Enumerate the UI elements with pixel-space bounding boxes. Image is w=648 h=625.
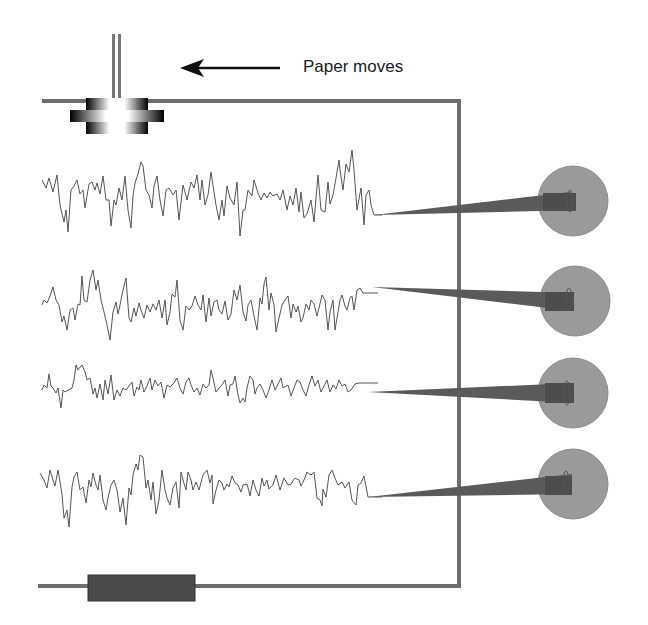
polygraph-diagram bbox=[0, 0, 648, 625]
trace-2 bbox=[42, 270, 378, 340]
trace-1 bbox=[42, 150, 382, 236]
pen-1 bbox=[374, 166, 608, 236]
roller-shaft-icon bbox=[112, 34, 121, 99]
pen-3 bbox=[368, 358, 608, 428]
paper-moves-label: Paper moves bbox=[303, 57, 403, 77]
pen-4 bbox=[368, 449, 608, 519]
trace-4 bbox=[40, 455, 382, 527]
paper-frame bbox=[38, 101, 461, 587]
feed-roller-icon bbox=[70, 98, 164, 134]
pen-2 bbox=[372, 266, 610, 336]
left-arrow-icon bbox=[180, 59, 280, 77]
trace-3 bbox=[42, 365, 378, 408]
pen-arm bbox=[368, 383, 574, 403]
supply-roll-bar bbox=[88, 575, 195, 601]
pen-arm bbox=[368, 474, 572, 497]
